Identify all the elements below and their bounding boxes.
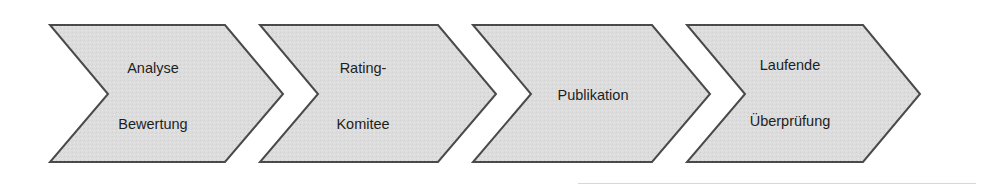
chevron-shapes: [0, 0, 999, 185]
step-2-label-line-1: Rating-: [340, 60, 387, 76]
divider-line: [578, 183, 976, 184]
step-1-label-line-1: Analyse: [127, 60, 179, 76]
process-chevron-diagram: Analyse Bewertung Rating- Komitee Publik…: [0, 0, 999, 185]
chevron-step-1: [50, 25, 283, 162]
step-3-label: Publikation: [558, 87, 629, 103]
step-2-label-line-2: Komitee: [336, 116, 389, 132]
step-4-label-line-2: Überprüfung: [750, 113, 831, 129]
step-4-label-line-1: Laufende: [760, 57, 820, 73]
chevron-step-4: [687, 25, 920, 162]
chevron-step-2: [260, 25, 496, 162]
step-1-label-line-2: Bewertung: [118, 116, 187, 132]
